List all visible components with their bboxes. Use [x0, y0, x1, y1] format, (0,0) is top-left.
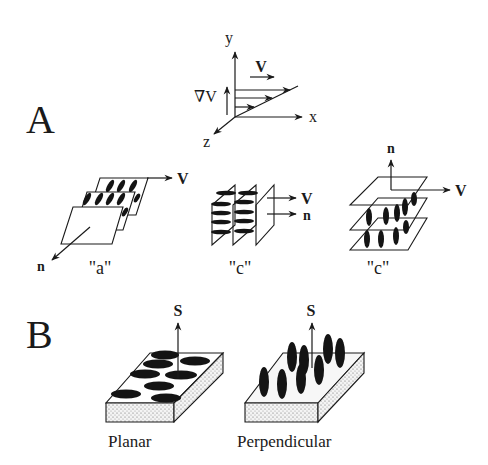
v-label-c: V — [455, 182, 467, 199]
alignment-b: V n "c" — [211, 185, 313, 278]
diagram-svg: A y x z V ∇V — [0, 0, 488, 465]
perpendicular-substrate: S Perpendicular — [237, 302, 364, 451]
shear-flow-axes: y x z V ∇V — [194, 29, 317, 150]
substrate-front-face — [245, 403, 318, 422]
n-label-a: n — [37, 259, 45, 274]
alignment-c: n V "c" — [350, 141, 467, 278]
y-axis-label: y — [225, 29, 233, 47]
planar-label: Planar — [108, 432, 152, 451]
alignment-a: V n "a" — [37, 170, 189, 278]
velocity-label: V — [255, 58, 267, 75]
panel-label-a: A — [26, 97, 55, 142]
perpendicular-label: Perpendicular — [237, 432, 332, 451]
gradient-label: ∇V — [194, 88, 217, 105]
alignment-a-label: "a" — [89, 258, 112, 278]
alignment-c-label: "c" — [367, 258, 390, 278]
x-axis-label: x — [309, 108, 317, 125]
v-label-b: V — [301, 190, 313, 207]
velocity-profile-line — [235, 86, 298, 117]
n-label-b: n — [303, 208, 311, 223]
v-label-a: V — [177, 170, 189, 187]
alignment-b-label: "c" — [229, 258, 252, 278]
z-axis-label: z — [203, 133, 210, 150]
panel-label-b: B — [26, 312, 53, 357]
substrate-front-face — [106, 403, 174, 422]
z-axis-arrow — [214, 117, 235, 134]
n-label-c: n — [387, 141, 395, 156]
planar-substrate: S Planar — [106, 302, 223, 451]
diagram-root: A y x z V ∇V — [0, 0, 488, 465]
s-label-perpendicular: S — [307, 302, 316, 319]
s-label-planar: S — [174, 302, 183, 319]
